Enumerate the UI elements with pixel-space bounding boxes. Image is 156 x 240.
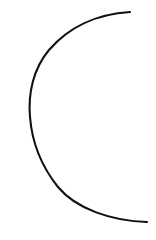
drawing-canvas bbox=[0, 0, 156, 240]
arc-drawing-svg bbox=[0, 0, 156, 240]
